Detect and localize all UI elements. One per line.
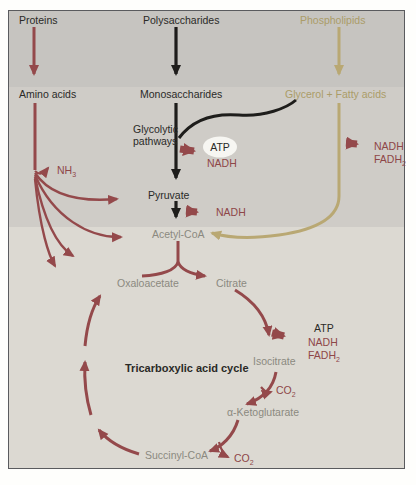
label-proteins: Proteins bbox=[19, 14, 58, 26]
label-phospholipids: Phospholipids bbox=[300, 14, 365, 26]
label-co2-succinyl: CO2 bbox=[234, 452, 254, 469]
co2a-base: CO bbox=[276, 384, 292, 396]
stem-branch-to-citrate bbox=[178, 262, 205, 276]
label-monosaccharides: Monosaccharides bbox=[140, 88, 222, 100]
label-oxaloacetate: Oxaloacetate bbox=[117, 277, 179, 289]
label-nh3: NH3 bbox=[57, 164, 76, 181]
arc-succinyl-up-left-1 bbox=[99, 430, 139, 454]
label-atp-glycolysis: ATP bbox=[205, 141, 235, 153]
arc-up-to-oxaloacetate bbox=[85, 296, 100, 346]
arc-ketoglutarate-to-succinyl-coa bbox=[210, 420, 238, 451]
block-arrow-glycolysis-outputs bbox=[180, 149, 194, 151]
block-arrow-pyruvate-nadh bbox=[186, 211, 197, 212]
tca-fadh-sub: 2 bbox=[336, 356, 340, 363]
glycolytic-line2: pathways bbox=[133, 135, 177, 147]
fadh-base: FADH bbox=[374, 153, 402, 165]
diagram-arrows-canvas bbox=[9, 11, 403, 467]
arc-citrate-to-isocitrate bbox=[235, 290, 269, 335]
co2b-sub: 2 bbox=[250, 459, 254, 466]
label-nadh-beta-oxidation: NADH bbox=[374, 140, 404, 152]
label-glycerol-fatty-acids: Glycerol + Fatty acids bbox=[285, 88, 386, 100]
label-isocitrate: Isocitrate bbox=[253, 355, 296, 367]
label-fadh2-tca: FADH2 bbox=[308, 349, 340, 366]
label-nadh-pyruvate: NADH bbox=[216, 206, 246, 218]
label-co2-isocitrate: CO2 bbox=[276, 384, 296, 401]
label-atp-tca: ATP bbox=[314, 322, 334, 334]
block-arrow-beta-oxidation-outputs bbox=[346, 143, 357, 144]
label-acetyl-coa: Acetyl-CoA bbox=[152, 228, 205, 240]
label-nadh-glycolysis: NADH bbox=[207, 157, 237, 169]
label-nadh-tca: NADH bbox=[308, 336, 338, 348]
arrow-deamination-nh3 bbox=[35, 168, 48, 174]
co2b-base: CO bbox=[234, 452, 250, 464]
label-fadh2-beta-oxidation: FADH2 bbox=[374, 153, 406, 170]
arc-left-side-up-2 bbox=[85, 362, 91, 415]
metabolic-pathways-figure: Proteins Polysaccharides Phospholipids A… bbox=[8, 10, 405, 469]
tca-fadh-base: FADH bbox=[308, 349, 336, 361]
curve-glycerol-into-glycolysis bbox=[179, 100, 296, 138]
block-arrow-tca-outputs bbox=[272, 333, 284, 336]
fadh-sub: 2 bbox=[402, 160, 406, 167]
label-glycolytic-pathways: Glycolytic pathways bbox=[133, 123, 178, 147]
label-pyruvate: Pyruvate bbox=[148, 189, 189, 201]
co2a-sub: 2 bbox=[292, 391, 296, 398]
label-succinyl-coa: Succinyl-CoA bbox=[145, 449, 208, 461]
nh-base: NH bbox=[57, 164, 72, 176]
label-citrate: Citrate bbox=[216, 277, 247, 289]
arrow-amino-to-acetyl-coa bbox=[35, 175, 121, 237]
stem-branch-to-oxaloacetate bbox=[142, 262, 178, 276]
nh-sub: 3 bbox=[72, 171, 76, 178]
label-polysaccharides: Polysaccharides bbox=[143, 14, 219, 26]
label-alpha-ketoglutarate: α-Ketoglutarate bbox=[227, 406, 299, 418]
metabolism-diagram-page: Proteins Polysaccharides Phospholipids A… bbox=[0, 0, 416, 485]
label-amino-acids: Amino acids bbox=[19, 88, 76, 100]
glycolytic-line1: Glycolytic bbox=[133, 123, 178, 135]
label-tca-title: Tricarboxylic acid cycle bbox=[125, 362, 249, 374]
